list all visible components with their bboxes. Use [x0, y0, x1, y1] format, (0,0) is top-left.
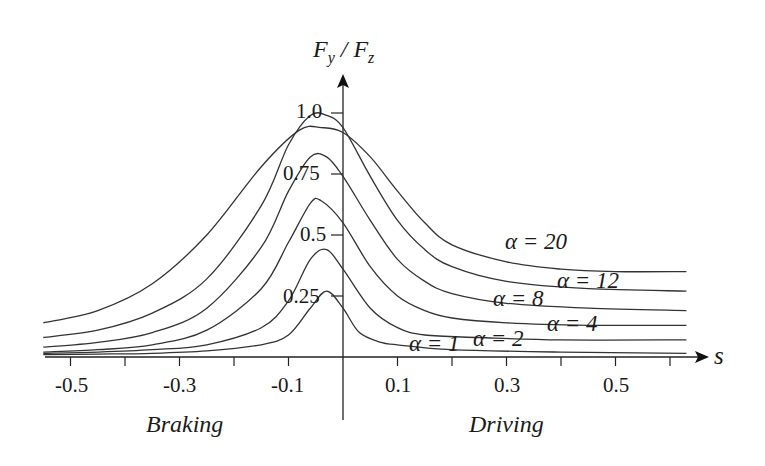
- chart-canvas: [0, 0, 765, 466]
- x-tick-label-0.1: 0.1: [385, 373, 411, 398]
- curve-label-alpha-12: α = 12: [557, 268, 619, 294]
- x-tick-label-0.5: 0.5: [603, 373, 629, 398]
- y-tick-label-1.0: 1.0: [296, 99, 322, 124]
- curve-label-alpha-4: α = 4: [547, 311, 598, 337]
- x-axis-label: s: [714, 342, 724, 370]
- x-tick-label--0.3: -0.3: [163, 373, 196, 398]
- y-axis-label: Fy / Fz: [313, 36, 374, 67]
- curve-label-alpha-20: α = 20: [505, 229, 567, 255]
- braking-label: Braking: [146, 411, 223, 438]
- x-tick-label-0.3: 0.3: [494, 373, 520, 398]
- y-tick-label-0.75: 0.75: [283, 161, 320, 186]
- driving-label: Driving: [469, 411, 544, 438]
- curve-12-series: [43, 113, 686, 338]
- curve-label-alpha-8: α = 8: [493, 286, 544, 312]
- curve-label-alpha-2: α = 2: [473, 326, 524, 352]
- curve-label-alpha-1: α = 1: [409, 331, 460, 357]
- y-tick-label-0.5: 0.5: [300, 222, 326, 247]
- x-tick-label--0.1: -0.1: [271, 373, 304, 398]
- curve-2-series: [43, 249, 686, 353]
- y-tick-label-0.25: 0.25: [283, 284, 320, 309]
- x-tick-label--0.5: -0.5: [55, 373, 88, 398]
